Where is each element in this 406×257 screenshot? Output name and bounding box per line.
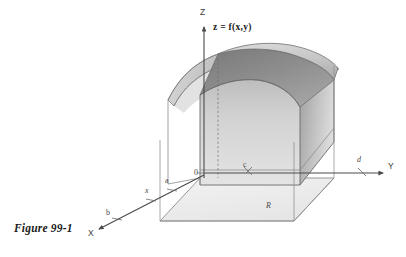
surface-volume-diagram [0, 0, 406, 257]
x-lower-bound-label: a [165, 176, 169, 185]
z-axis-label: Z [200, 7, 205, 17]
surface-equation-label: z = f(x,y) [213, 22, 252, 32]
y-upper-bound-label: d [357, 155, 361, 164]
origin-label: 0 [194, 168, 198, 177]
y-axis-label: Y [388, 161, 394, 171]
figure-caption: Figure 99-1 [14, 222, 73, 234]
y-lower-bound-label: c [243, 160, 247, 169]
region-label: R [266, 201, 271, 210]
x-variable-label: x [145, 186, 149, 195]
x-upper-bound-label: b [106, 208, 110, 217]
figure-container: z = f(x,y) Z Y X 0 a b x c d R Figure 99… [0, 0, 406, 257]
x-axis-label: X [88, 228, 94, 238]
